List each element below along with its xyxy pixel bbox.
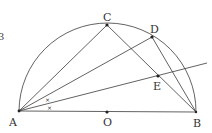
angle-mark-2: × (47, 104, 52, 111)
edge-fragment-text: 3 (0, 31, 4, 42)
geometry-figure: 3 × × A O B C D E (0, 0, 212, 133)
segment-DB (152, 37, 196, 112)
point-A (18, 110, 21, 113)
point-E (156, 74, 159, 77)
label-B: B (193, 117, 201, 130)
segment-AD (19, 37, 152, 111)
label-O: O (103, 116, 112, 129)
point-B (195, 111, 197, 113)
label-E: E (153, 80, 161, 93)
angle-mark-1: × (45, 96, 50, 103)
label-D: D (150, 23, 159, 36)
label-A: A (8, 116, 18, 129)
point-O (105, 110, 108, 113)
label-C: C (103, 11, 111, 24)
segment-AC (19, 25, 107, 111)
